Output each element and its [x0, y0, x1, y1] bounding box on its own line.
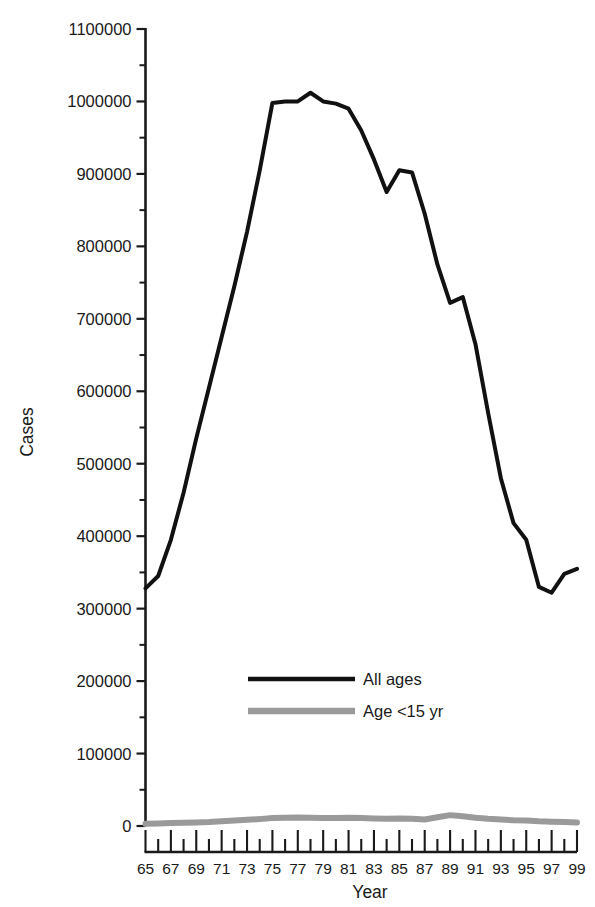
x-axis-tick-label: 93	[492, 860, 509, 877]
x-axis-tick-label: 65	[137, 860, 154, 877]
legend-label-age-under-15: Age <15 yr	[363, 702, 444, 720]
y-axis-tick-label: 400000	[76, 527, 131, 545]
x-axis-tick-label: 81	[340, 860, 357, 877]
chart-container: 1100000100000090000080000070000060000050…	[0, 0, 595, 907]
x-axis-tick-label: 83	[365, 860, 382, 877]
y-axis-tick-label: 700000	[76, 310, 131, 328]
x-axis-tick-label: 95	[518, 860, 535, 877]
y-axis-tick-label: 600000	[76, 382, 131, 400]
series-line-all-ages	[146, 93, 578, 593]
x-axis-tick-label: 87	[416, 860, 433, 877]
x-axis-tick-label: 99	[568, 860, 585, 877]
x-axis-tick-label: 75	[264, 860, 281, 877]
series-line-age-under-15	[146, 815, 578, 824]
chart-legend: All agesAge <15 yr	[248, 670, 444, 720]
line-chart: 1100000100000090000080000070000060000050…	[0, 0, 595, 907]
x-axis-tick-label: 71	[213, 860, 230, 877]
x-axis-tick-label: 91	[467, 860, 484, 877]
y-axis: 1100000100000090000080000070000060000050…	[67, 20, 145, 835]
chart-series-group	[146, 93, 578, 824]
x-axis-tick-label: 73	[238, 860, 255, 877]
y-axis-tick-label: 100000	[76, 745, 131, 763]
x-axis-tick-label: 67	[162, 860, 179, 877]
legend-label-all-ages: All ages	[363, 670, 422, 688]
y-axis-tick-label: 200000	[76, 672, 131, 690]
y-axis-tick-label: 800000	[76, 237, 131, 255]
y-axis-tick-label: 0	[122, 817, 131, 835]
x-axis: 656769717375777981838587899193959799	[137, 830, 586, 877]
x-axis-tick-label: 89	[441, 860, 458, 877]
y-axis-tick-label: 1100000	[68, 20, 131, 38]
x-axis-title: Year	[352, 882, 388, 902]
y-axis-tick-label: 1000000	[67, 92, 131, 110]
y-axis-tick-label: 900000	[76, 165, 131, 183]
y-axis-title: Cases	[17, 407, 37, 457]
x-axis-tick-label: 79	[315, 860, 332, 877]
y-axis-tick-label: 300000	[76, 600, 131, 618]
x-axis-tick-label: 77	[289, 860, 306, 877]
y-axis-tick-label: 500000	[76, 455, 131, 473]
axis-titles: CasesYear	[17, 407, 388, 902]
x-axis-tick-label: 69	[188, 860, 205, 877]
x-axis-tick-label: 85	[391, 860, 408, 877]
x-axis-tick-label: 97	[543, 860, 560, 877]
